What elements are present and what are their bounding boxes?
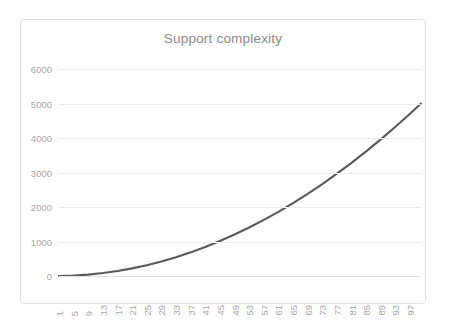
x-tick-label: 53 [245,305,255,316]
x-tick-label: 37 [187,305,197,316]
gridline-2000 [59,207,421,208]
x-tick-label: 49 [231,305,241,316]
x-tick-label: 13 [99,305,109,316]
y-tick-label: 4000 [31,133,52,144]
series-polyline [59,104,421,276]
x-tick-label: 77 [333,305,343,316]
x-tick-label: 97 [406,305,416,316]
chart-title: Support complexity [21,31,425,46]
y-tick-label: 6000 [31,64,52,75]
x-tick-label: 93 [391,305,401,316]
x-tick-label: 89 [377,305,387,316]
x-tick-label: 41 [201,305,211,316]
x-tick-label: 61 [274,305,284,316]
gridline-6000 [59,69,421,70]
x-tick-label: 21 [128,305,138,316]
x-axis-labels: 1591317212529333741454953576165697377818… [59,276,421,316]
y-tick-label: 5000 [31,98,52,109]
x-tick-label: 69 [304,305,314,316]
x-tick-label: 45 [216,305,226,316]
gridline-1000 [59,242,421,243]
y-tick-label: 1000 [31,236,52,247]
x-tick-label: 33 [172,305,182,316]
x-tick-label: 5 [70,311,80,316]
x-tick-label: 29 [157,305,167,316]
gridline-4000 [59,138,421,139]
x-tick-label: 25 [143,305,153,316]
x-tick-label: 73 [318,305,328,316]
x-tick-label: 9 [84,311,94,316]
x-tick-label: 17 [114,305,124,316]
y-tick-label: 0 [47,271,52,282]
x-tick-label: 85 [362,305,372,316]
gridline-5000 [59,104,421,105]
plot-area: 0100020003000400050006000 [59,69,421,276]
x-tick-label: 81 [348,305,358,316]
chart-frame: Support complexity 010002000300040005000… [20,19,426,304]
y-tick-label: 2000 [31,202,52,213]
x-tick-label: 65 [289,305,299,316]
gridline-3000 [59,173,421,174]
y-tick-label: 3000 [31,167,52,178]
x-tick-label: 1 [55,311,65,316]
x-tick-label: 57 [260,305,270,316]
